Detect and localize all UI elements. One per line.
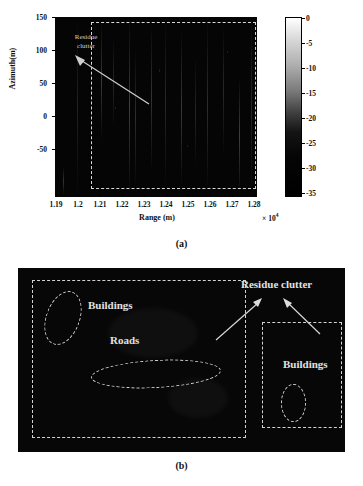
panel-a-sar-image: Residue clutter Azimuth(m) 150 100 50 0 … <box>0 0 363 243</box>
figure-container: Residue clutter Azimuth(m) 150 100 50 0 … <box>0 0 363 486</box>
colorbar <box>285 17 302 197</box>
colorbar-tick-2: -10 <box>306 64 330 73</box>
annotation-line-1: Residue <box>75 33 98 41</box>
y-tick-0: 150 <box>17 13 47 22</box>
label-roads: Roads <box>110 334 139 346</box>
y-tick-1: 100 <box>17 46 47 55</box>
label-residue-clutter: Residue clutter <box>241 278 312 290</box>
x-axis-label: Range (m) <box>117 213 197 222</box>
label-buildings-left: Buildings <box>88 299 133 311</box>
ellipse-buildings-right <box>281 384 306 422</box>
label-buildings-right: Buildings <box>283 358 328 370</box>
annotation-arrow-icon <box>73 54 151 106</box>
y-tick-3: 0 <box>17 112 47 121</box>
colorbar-tick-6: -30 <box>306 164 330 173</box>
colorbar-tick-5: -25 <box>306 139 330 148</box>
colorbar-tick-4: -20 <box>306 114 330 123</box>
x-axis-multiplier: × 104 <box>262 212 278 223</box>
colorbar-tick-7: -35 <box>306 189 330 198</box>
y-tick-4: -50 <box>17 145 47 154</box>
sar-heatmap-plot: Residue clutter <box>55 17 257 197</box>
colorbar-tick-1: -5 <box>306 39 330 48</box>
colorbar-tick-0: 0 <box>306 14 330 23</box>
annotation-residue-clutter: Residue clutter <box>61 33 111 51</box>
caption-a: (a) <box>0 238 363 249</box>
colorbar-tick-3: -15 <box>306 89 330 98</box>
y-tick-2: 50 <box>17 79 47 88</box>
annotation-line-2: clutter <box>77 42 95 50</box>
panel-b-schematic: Buildings Roads Residue clutter Building… <box>18 268 345 452</box>
y-axis-label: Azimuth(m) <box>8 76 17 90</box>
x-tick-9: 1.28 <box>239 200 269 209</box>
caption-b: (b) <box>0 460 363 471</box>
residue-clutter-arrow-right-icon <box>280 294 324 336</box>
residue-clutter-arrow-left-icon <box>214 294 274 342</box>
